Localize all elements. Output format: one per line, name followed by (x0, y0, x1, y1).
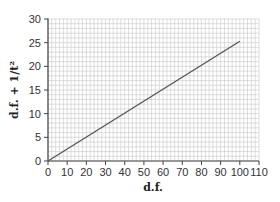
x-tick-label: 40 (119, 166, 131, 178)
x-tick-label: 110 (250, 166, 268, 178)
y-tick-label: 15 (29, 84, 41, 96)
x-tick-label: 20 (80, 166, 92, 178)
x-tick-label: 0 (45, 166, 51, 178)
x-tick-label: 70 (176, 166, 188, 178)
y-tick-label: 0 (35, 155, 41, 167)
x-tick-label: 60 (157, 166, 169, 178)
y-tick-label: 20 (29, 60, 41, 72)
y-tick-label: 25 (29, 37, 41, 49)
x-axis-ticks: 0102030405060708090100110 (45, 161, 268, 178)
grid (48, 19, 259, 161)
y-axis-ticks: 051015202530 (29, 13, 48, 167)
x-tick-label: 10 (61, 166, 73, 178)
x-tick-label: 80 (195, 166, 207, 178)
line-chart: 0102030405060708090100110 051015202530 d… (0, 0, 280, 202)
x-tick-label: 90 (215, 166, 227, 178)
x-tick-label: 30 (99, 166, 111, 178)
x-axis-title: d.f. (143, 181, 163, 194)
x-tick-label: 100 (231, 166, 249, 178)
y-axis-title: d.f. + 1/t² (8, 61, 21, 119)
y-tick-label: 30 (29, 13, 41, 25)
y-tick-label: 5 (35, 131, 41, 143)
x-tick-label: 50 (138, 166, 150, 178)
y-tick-label: 10 (29, 108, 41, 120)
